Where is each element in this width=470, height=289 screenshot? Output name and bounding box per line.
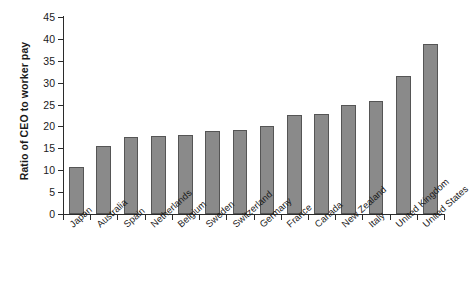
- y-axis-tick-label: 5: [15, 187, 55, 197]
- x-axis-tick: [281, 215, 282, 220]
- x-axis-tick: [145, 215, 146, 220]
- x-axis-tick: [335, 215, 336, 220]
- y-axis-tick-label: 35: [15, 56, 55, 66]
- x-axis-tick: [117, 215, 118, 220]
- bar: [205, 131, 220, 214]
- x-axis-tick: [308, 215, 309, 220]
- y-axis-tick-label: 30: [15, 78, 55, 88]
- y-axis-tick-label: 15: [15, 143, 55, 153]
- x-axis-tick: [226, 215, 227, 220]
- y-axis-tick-label: 20: [15, 121, 55, 131]
- x-axis-tick: [444, 215, 445, 220]
- x-axis-tick: [417, 215, 418, 220]
- bar: [96, 146, 111, 214]
- bar: [396, 76, 411, 214]
- bar: [314, 114, 329, 214]
- bar: [233, 130, 248, 214]
- y-axis-tick-label: 45: [15, 12, 55, 22]
- x-axis-tick: [199, 215, 200, 220]
- plot-area: [63, 17, 444, 214]
- y-axis-tick-label: 10: [15, 165, 55, 175]
- x-axis-tick: [390, 215, 391, 220]
- y-axis-tick-label: 25: [15, 100, 55, 110]
- x-axis-tick: [254, 215, 255, 220]
- x-axis-tick: [172, 215, 173, 220]
- bar: [341, 105, 356, 214]
- bar: [151, 136, 166, 214]
- x-axis-tick: [90, 215, 91, 220]
- x-axis-tick: [63, 215, 64, 220]
- x-axis-tick: [362, 215, 363, 220]
- y-axis-tick-label: 0: [15, 209, 55, 219]
- y-axis-tick-label: 40: [15, 34, 55, 44]
